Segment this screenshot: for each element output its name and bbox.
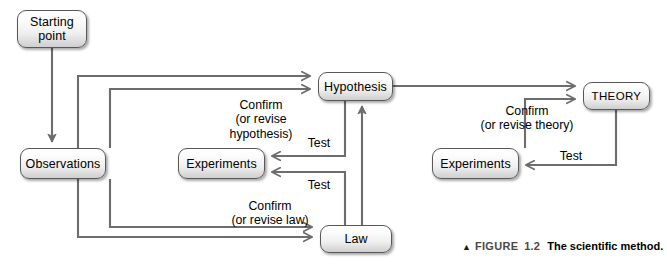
edge-label-confirm-theory: Confirm (or revise theory) [462,104,592,133]
figure-caption: ▲ FIGURE 1.2 The scientific method. [462,240,663,252]
caption-label: FIGURE [475,240,518,252]
node-starting-point[interactable]: Starting point [17,10,87,48]
node-experiments-left[interactable]: Experiments [178,148,265,179]
node-observations[interactable]: Observations [20,148,106,179]
node-law[interactable]: Law [320,225,392,253]
edge-label-test-law: Test [300,178,338,192]
node-experiments-right[interactable]: Experiments [432,148,519,179]
edge-label-confirm-hypothesis: Confirm (or revise hypothesis) [203,98,319,141]
node-theory[interactable]: THEORY [583,82,650,110]
caption-triangle-icon: ▲ [462,243,471,252]
figure-container: Starting point Observations Hypothesis E… [0,0,667,273]
node-hypothesis[interactable]: Hypothesis [318,72,393,101]
edge-label-test-theory: Test [552,149,590,163]
edge-label-test-hypothesis: Test [300,136,338,150]
edge-label-confirm-law: Confirm (or revise law) [205,199,335,228]
caption-number: 1.2 [524,240,540,252]
caption-title: The scientific method. [547,240,663,252]
